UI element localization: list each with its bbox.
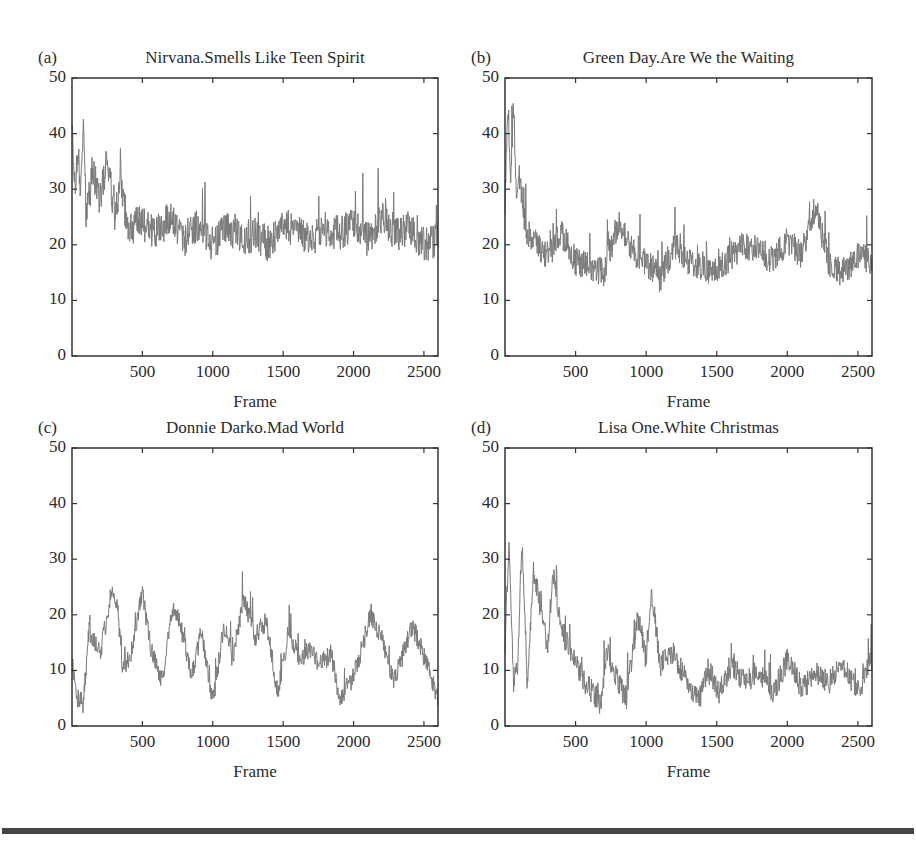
y-tick-label: 40 — [463, 493, 499, 513]
x-tick-label: 1000 — [621, 732, 671, 752]
data-series-line — [505, 542, 872, 713]
x-tick-label: 2000 — [762, 732, 812, 752]
x-axis-label: Frame — [629, 762, 749, 782]
y-tick-label: 10 — [463, 659, 499, 679]
y-tick-label: 30 — [463, 548, 499, 568]
x-tick-label: 2500 — [833, 732, 883, 752]
plot-area — [0, 0, 916, 849]
x-tick-label: 1500 — [692, 732, 742, 752]
horizontal-rule — [2, 828, 914, 834]
y-tick-label: 50 — [463, 437, 499, 457]
y-tick-label: 20 — [463, 604, 499, 624]
x-tick-label: 500 — [551, 732, 601, 752]
y-tick-label: 0 — [463, 715, 499, 735]
